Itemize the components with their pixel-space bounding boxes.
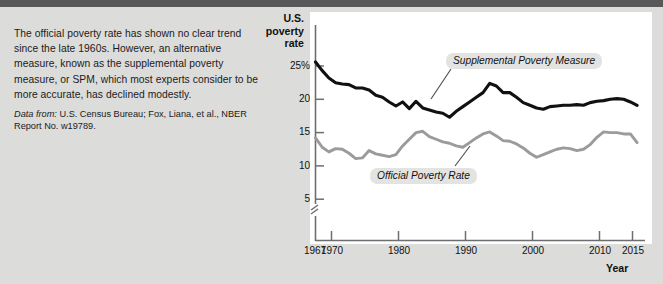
y-tick-label-10: 10 xyxy=(266,160,310,171)
y-tick-label-15: 15 xyxy=(266,126,310,137)
y-tick-label-25: 25% xyxy=(266,60,310,71)
data-series-group xyxy=(316,62,638,159)
line-supplemental-poverty-measure xyxy=(316,62,638,117)
x-tick-label-1970: 1970 xyxy=(310,245,354,256)
line-official-poverty-rate xyxy=(316,131,638,158)
figure-container: The official poverty rate has shown no c… xyxy=(0,0,663,284)
x-tick-label-1990: 1990 xyxy=(444,245,488,256)
y-tick-label-5: 5 xyxy=(266,193,310,204)
x-tick-label-1980: 1980 xyxy=(377,245,421,256)
chart-plot xyxy=(0,0,663,284)
series-label-official: Official Poverty Rate xyxy=(370,168,477,184)
x-tick-marks xyxy=(332,231,633,241)
y-tick-label-20: 20 xyxy=(266,93,310,104)
series-label-spm: Supplemental Poverty Measure xyxy=(446,53,602,69)
y-tick-marks xyxy=(315,66,324,199)
x-tick-label-2015: 2015 xyxy=(611,245,655,256)
x-tick-label-2000: 2000 xyxy=(511,245,555,256)
